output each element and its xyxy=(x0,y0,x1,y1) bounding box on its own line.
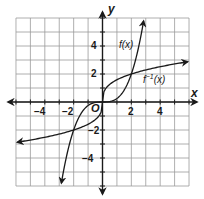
f-label: f(x) xyxy=(119,39,133,50)
y-tick-label-2: 2 xyxy=(91,68,97,79)
f-inverse-label: f−1(x) xyxy=(143,73,165,85)
x-tick-label-4: 4 xyxy=(157,106,163,117)
x-tick-label-2: 2 xyxy=(128,106,134,117)
function-graph: y x O −4 −2 2 4 4 2 −2 −4 f(x) f−1(x) xyxy=(0,0,204,199)
x-tick-label-neg4: −4 xyxy=(34,106,46,117)
y-tick-label-4: 4 xyxy=(91,40,97,51)
x-tick-label-neg2: −2 xyxy=(62,106,74,117)
y-tick-label-neg4: −4 xyxy=(82,153,94,164)
y-axis-label: y xyxy=(107,2,116,16)
origin-label: O xyxy=(91,102,100,114)
x-axis-label: x xyxy=(190,86,199,100)
y-tick-label-neg2: −2 xyxy=(88,125,100,136)
